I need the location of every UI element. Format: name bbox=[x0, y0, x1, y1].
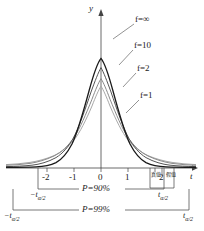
x-tick-label-0: 0 bbox=[98, 173, 103, 182]
y-axis-arrow bbox=[98, 9, 103, 16]
t-alpha-right-outer-label: tα/2 bbox=[183, 212, 193, 222]
leader-lines-group bbox=[113, 24, 139, 113]
t-alpha-right-inner-label: tα/2 bbox=[158, 191, 168, 201]
t-alpha-left-outer-label: −tα/2 bbox=[4, 212, 19, 222]
x-tick-label-1: 1 bbox=[125, 173, 130, 182]
t-alpha-left-inner-base: −t bbox=[30, 190, 38, 199]
leader-f-infinity bbox=[113, 24, 134, 39]
false-value-label: 假值 bbox=[166, 172, 174, 177]
series-label-f-2: f=2 bbox=[137, 64, 150, 73]
x-axis-label: t bbox=[190, 172, 193, 181]
series-label-f-1: f=1 bbox=[140, 91, 153, 100]
p90-label: P=90% bbox=[80, 184, 112, 193]
axes-group bbox=[6, 9, 198, 172]
leader-f-2 bbox=[123, 73, 136, 87]
t-alpha-right-inner-sub: α/2 bbox=[160, 195, 168, 201]
leader-f-10 bbox=[119, 50, 133, 65]
leader-f-1 bbox=[126, 100, 139, 113]
t-alpha-right-outer-sub: α/2 bbox=[185, 216, 193, 222]
series-label-f-10: f=10 bbox=[134, 41, 151, 50]
p99-label: P=99% bbox=[80, 205, 112, 214]
t-alpha-left-inner-sub: α/2 bbox=[38, 195, 46, 201]
series-label-f-infinity: f=∞ bbox=[135, 15, 150, 24]
t-alpha-left-outer-base: −t bbox=[4, 211, 12, 220]
figure-canvas: y t f=∞ f=10 f=2 f=1 -2 -1 0 1 2 真值 假值 P… bbox=[0, 0, 204, 231]
t-alpha-left-outer-sub: α/2 bbox=[12, 216, 20, 222]
true-value-label: 真值 bbox=[151, 172, 159, 177]
x-tick-label--1: -1 bbox=[69, 173, 77, 182]
y-axis-label: y bbox=[89, 4, 93, 13]
x-tick-label--2: -2 bbox=[42, 173, 50, 182]
t-alpha-left-inner-label: −tα/2 bbox=[30, 191, 45, 201]
